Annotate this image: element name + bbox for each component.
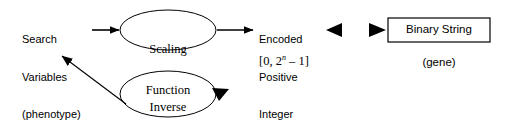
encoded-integer-line-3: Integer	[259, 108, 302, 121]
range-prefix: [0, 2	[259, 54, 282, 68]
integer-range-notation: [0, 2n – 1]	[259, 52, 309, 68]
diagram-canvas: Search Variables (phenotype) Scaling Fun…	[0, 0, 520, 140]
arrowhead-encoded-from-binary	[326, 23, 342, 37]
inverse-scaling-function-label: Inverse Scaling Function	[125, 74, 211, 140]
search-variables-line-1: Search	[22, 33, 81, 46]
inverse-scaling-line-1: Inverse	[125, 101, 211, 115]
search-variables-line-3: (phenotype)	[22, 108, 81, 121]
encoded-integer-line-2: Positive	[259, 71, 302, 84]
scaling-function-line-1: Scaling	[125, 43, 211, 57]
range-suffix: – 1]	[286, 54, 309, 68]
binary-string-label: Binary String	[388, 23, 490, 35]
gene-caption: (gene)	[388, 56, 490, 68]
encoded-integer-line-1: Encoded	[259, 33, 302, 46]
encoded-positive-integer-label: Encoded Positive Integer	[259, 8, 302, 140]
search-variables-label: Search Variables (phenotype)	[22, 8, 81, 140]
arrowhead-binary-from-encoded	[369, 23, 386, 37]
search-variables-line-2: Variables	[22, 71, 81, 84]
